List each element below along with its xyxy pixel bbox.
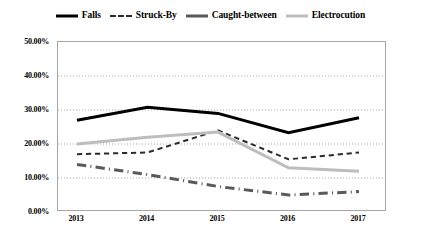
legend-label-electrocution: Electrocution: [312, 11, 365, 21]
chart-legend: Falls Struck-By Caught-between Electrocu…: [0, 6, 421, 26]
y-axis-tick-label: 30.00%: [24, 105, 49, 114]
legend-label-struck-by: Struck-By: [136, 11, 177, 21]
chart-plot-svg: [58, 42, 387, 212]
chart-container: Falls Struck-By Caught-between Electrocu…: [0, 0, 421, 240]
plot-area: [57, 41, 386, 211]
y-axis-tick-label: 40.00%: [24, 71, 49, 80]
x-axis-tick-label: 2013: [68, 214, 83, 223]
y-axis-tick-label: 50.00%: [24, 37, 49, 46]
line-solid-black-icon: [56, 11, 78, 21]
series-line-struck-by: [77, 130, 359, 159]
series-line-electrocution: [77, 132, 359, 171]
line-dashed-black-icon: [110, 11, 132, 21]
legend-item-struck-by: Struck-By: [110, 11, 177, 21]
legend-label-falls: Falls: [82, 11, 101, 21]
y-axis-tick-label: 20.00%: [24, 139, 49, 148]
x-axis: 20132014201520162017: [0, 214, 421, 232]
y-axis: 0.00%10.00%20.00%30.00%40.00%50.00%: [0, 41, 52, 211]
x-axis-tick-label: 2016: [280, 214, 295, 223]
y-axis-tick-label: 10.00%: [24, 173, 49, 182]
line-solid-gray-icon: [186, 11, 208, 21]
legend-label-caught-between: Caught-between: [212, 11, 277, 21]
x-axis-tick-label: 2015: [209, 214, 224, 223]
legend-item-electrocution: Electrocution: [286, 11, 365, 21]
line-solid-lightgray-icon: [286, 11, 308, 21]
legend-item-caught-between: Caught-between: [186, 11, 277, 21]
series-line-falls: [77, 107, 359, 133]
legend-item-falls: Falls: [56, 11, 101, 21]
x-axis-tick-label: 2014: [139, 214, 154, 223]
x-axis-tick-label: 2017: [350, 214, 365, 223]
